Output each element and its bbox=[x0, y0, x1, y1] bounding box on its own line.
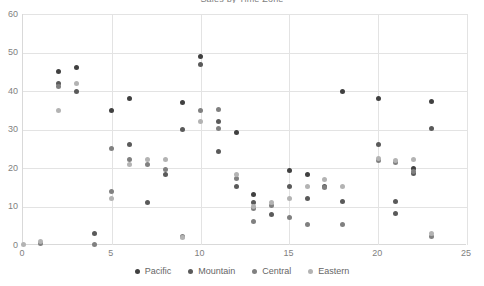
y-tick-label: 20 bbox=[0, 164, 18, 173]
gridline-horizontal bbox=[23, 53, 467, 54]
gridline-horizontal bbox=[23, 207, 467, 208]
x-tick-label: 15 bbox=[276, 249, 300, 258]
legend-marker-icon bbox=[252, 269, 257, 274]
data-point bbox=[216, 107, 221, 112]
data-point bbox=[340, 89, 345, 94]
y-tick-label: 60 bbox=[0, 10, 18, 19]
data-point bbox=[340, 184, 345, 189]
data-point bbox=[287, 168, 292, 173]
data-point bbox=[411, 169, 416, 174]
gridline-vertical bbox=[467, 14, 468, 245]
legend-item[interactable]: Pacific bbox=[135, 266, 172, 276]
data-point bbox=[109, 146, 114, 151]
data-point bbox=[198, 62, 203, 67]
data-point bbox=[198, 119, 203, 124]
data-point bbox=[269, 212, 274, 217]
data-point bbox=[322, 185, 327, 190]
gridline-horizontal bbox=[23, 91, 467, 92]
legend-marker-icon bbox=[188, 269, 193, 274]
data-point bbox=[21, 242, 26, 247]
data-point bbox=[305, 184, 310, 189]
plot-area bbox=[22, 14, 466, 245]
x-tick-label: 5 bbox=[99, 249, 123, 258]
gridline-vertical bbox=[289, 14, 290, 245]
data-point bbox=[180, 100, 185, 105]
data-point bbox=[429, 231, 434, 236]
data-point bbox=[340, 199, 345, 204]
y-tick-label: 30 bbox=[0, 125, 18, 134]
gridline-vertical bbox=[378, 14, 379, 245]
y-tick-label: 40 bbox=[0, 87, 18, 96]
data-point bbox=[92, 231, 97, 236]
data-point bbox=[393, 211, 398, 216]
data-point bbox=[305, 196, 310, 201]
gridline-vertical bbox=[201, 14, 202, 245]
data-point bbox=[216, 149, 221, 154]
legend-item[interactable]: Central bbox=[252, 266, 291, 276]
data-point bbox=[109, 189, 114, 194]
data-point bbox=[393, 199, 398, 204]
data-point bbox=[198, 108, 203, 113]
legend-marker-icon bbox=[135, 269, 140, 274]
data-point bbox=[198, 54, 203, 59]
data-point bbox=[38, 239, 43, 244]
legend-label: Central bbox=[262, 266, 291, 276]
legend-label: Pacific bbox=[145, 266, 172, 276]
x-tick-label: 10 bbox=[188, 249, 212, 258]
data-point bbox=[127, 96, 132, 101]
data-point bbox=[163, 157, 168, 162]
chart-legend: PacificMountainCentralEastern bbox=[0, 266, 484, 276]
data-point bbox=[287, 184, 292, 189]
data-point bbox=[429, 99, 434, 104]
data-point bbox=[92, 242, 97, 247]
x-tick-label: 25 bbox=[454, 249, 478, 258]
data-point bbox=[74, 65, 79, 70]
data-point bbox=[180, 235, 185, 240]
data-point bbox=[429, 126, 434, 131]
legend-item[interactable]: Mountain bbox=[188, 266, 235, 276]
legend-item[interactable]: Eastern bbox=[308, 266, 349, 276]
data-point bbox=[287, 196, 292, 201]
data-point bbox=[56, 108, 61, 113]
y-tick-label: 50 bbox=[0, 48, 18, 57]
legend-label: Mountain bbox=[198, 266, 235, 276]
data-point bbox=[287, 215, 292, 220]
data-point bbox=[376, 96, 381, 101]
data-point bbox=[56, 69, 61, 74]
data-point bbox=[376, 156, 381, 161]
gridline-vertical bbox=[112, 14, 113, 245]
data-point bbox=[74, 89, 79, 94]
data-point bbox=[234, 184, 239, 189]
data-point bbox=[234, 130, 239, 135]
y-tick-label: 0 bbox=[0, 241, 18, 250]
data-point bbox=[145, 157, 150, 162]
data-point bbox=[251, 192, 256, 197]
legend-marker-icon bbox=[308, 269, 313, 274]
data-point bbox=[340, 222, 345, 227]
data-point bbox=[305, 222, 310, 227]
data-point bbox=[251, 219, 256, 224]
data-point bbox=[145, 200, 150, 205]
x-tick-label: 0 bbox=[10, 249, 34, 258]
data-point bbox=[127, 142, 132, 147]
legend-label: Eastern bbox=[318, 266, 349, 276]
data-point bbox=[376, 142, 381, 147]
data-point bbox=[145, 162, 150, 167]
data-point bbox=[127, 162, 132, 167]
data-point bbox=[411, 157, 416, 162]
data-point bbox=[305, 172, 310, 177]
scatter-chart: Sales by Time Zone 6050403020100 0510152… bbox=[0, 0, 484, 286]
x-tick-label: 20 bbox=[365, 249, 389, 258]
data-point bbox=[234, 172, 239, 177]
data-point bbox=[74, 81, 79, 86]
gridline-horizontal bbox=[23, 14, 467, 15]
data-point bbox=[163, 172, 168, 177]
data-point bbox=[109, 108, 114, 113]
data-point bbox=[109, 196, 114, 201]
data-point bbox=[216, 119, 221, 124]
data-point bbox=[56, 84, 61, 89]
data-point bbox=[322, 177, 327, 182]
y-tick-label: 10 bbox=[0, 202, 18, 211]
gridline-horizontal bbox=[23, 130, 467, 131]
data-point bbox=[180, 127, 185, 132]
